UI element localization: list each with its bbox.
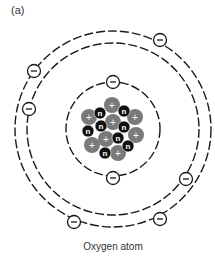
svg-text:n: n (86, 127, 91, 136)
svg-text:+: + (132, 112, 138, 123)
svg-text:+: + (103, 134, 109, 145)
svg-text:+: + (86, 112, 92, 123)
svg-text:n: n (103, 149, 108, 158)
svg-text:n: n (116, 134, 121, 143)
neutron: n (122, 140, 134, 152)
svg-text:n: n (126, 142, 131, 151)
neutron: n (118, 121, 130, 133)
oxygen-atom-diagram: ++++++++nnnnnnnn (0, 0, 215, 266)
svg-text:n: n (98, 109, 103, 118)
neutron: n (95, 120, 107, 132)
svg-text:+: + (109, 100, 115, 111)
electron (107, 76, 120, 89)
electron (154, 213, 167, 226)
proton: + (104, 97, 120, 113)
neutron: n (118, 105, 130, 117)
svg-text:n: n (99, 122, 104, 131)
neutron: n (94, 107, 106, 119)
diagram-caption: Oxygen atom (0, 241, 215, 252)
svg-text:+: + (133, 130, 139, 141)
electron (28, 65, 41, 78)
neutron: n (82, 125, 94, 137)
svg-text:+: + (89, 140, 95, 151)
svg-text:n: n (122, 123, 127, 132)
electron (180, 173, 193, 186)
svg-text:+: + (110, 117, 116, 128)
proton: + (98, 131, 114, 147)
electron (154, 34, 167, 47)
svg-text:n: n (122, 107, 127, 116)
svg-text:+: + (115, 148, 121, 159)
electron (23, 103, 36, 116)
neutron: n (99, 147, 111, 159)
neutron: n (112, 132, 124, 144)
electron (107, 172, 120, 185)
proton: + (84, 137, 100, 153)
nucleus: ++++++++nnnnnnnn (81, 97, 144, 161)
electron (68, 216, 81, 229)
